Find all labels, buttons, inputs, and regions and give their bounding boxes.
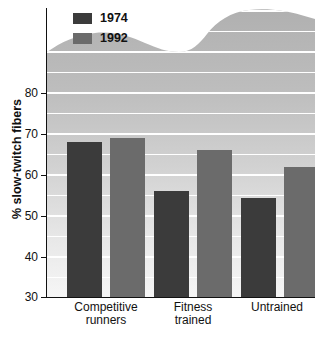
x-axis-line [46,297,315,298]
category-labels: Competitive runners Fitness trained Untr… [47,301,315,343]
category-line1: Untrained [223,301,323,314]
bar-competitive-runners-1992 [110,138,145,298]
y-tick-label-30: 30 [0,291,38,303]
y-axis-line [46,8,47,298]
bars-layer [47,8,315,298]
bar-untrained-1974 [241,198,276,298]
legend-item-1974: 1974 [73,10,128,27]
y-tick-mark-30 [41,297,46,298]
category-label-untrained: Untrained [223,301,323,314]
bar-fitness-trained-1974 [154,191,189,298]
legend-item-1992: 1992 [73,30,128,47]
plot-area [47,8,315,298]
legend-label-1974: 1974 [100,12,128,25]
category-line2: trained [139,314,247,327]
y-axis-title: % slow-twitch fibers [10,59,24,259]
bar-fitness-trained-1992 [197,150,232,298]
chart-legend: 1974 1992 [73,10,128,50]
y-tick-mark-60 [41,175,46,176]
y-tick-mark-50 [41,216,46,217]
legend-swatch-icon-1974 [73,13,92,24]
y-tick-mark-80 [41,93,46,94]
legend-label-1992: 1992 [100,32,128,45]
bar-competitive-runners-1974 [67,142,102,298]
legend-swatch-icon-1992 [73,33,92,44]
y-tick-mark-40 [41,257,46,258]
bar-untrained-1992 [284,167,315,298]
chart-figure: 80 70 60 50 40 30 % slow-twitch fibers C… [0,0,323,347]
y-tick-mark-70 [41,134,46,135]
